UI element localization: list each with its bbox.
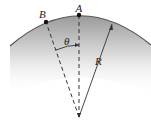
shaded-region	[10, 16, 151, 95]
label-b: B	[39, 8, 46, 20]
circular-sector-diagram: A B θ R	[0, 0, 151, 128]
label-r: R	[94, 55, 102, 67]
label-theta: θ	[64, 35, 70, 47]
center-arrowhead-icon	[77, 113, 81, 118]
point-b-dot	[44, 20, 48, 24]
label-a: A	[75, 2, 83, 14]
diagram-canvas: A B θ R	[0, 0, 151, 128]
